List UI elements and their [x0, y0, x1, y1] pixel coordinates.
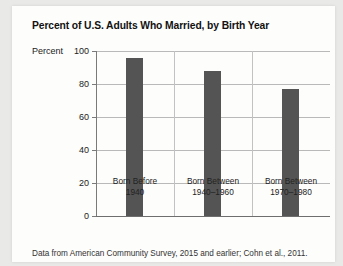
tick-mark-100 [92, 51, 96, 52]
y-tick-label-80: 80 [79, 79, 89, 89]
gridline-100 [96, 51, 330, 52]
x-category-label-2-line2: 1970–1980 [252, 187, 330, 198]
source-note: Data from American Community Survey, 201… [32, 249, 307, 258]
x-category-label-2-line1: Born Between [252, 176, 330, 187]
x-category-label-1-line2: 1940–1960 [174, 187, 252, 198]
x-category-label-0-line1: Born Before [96, 176, 174, 187]
tick-mark-60 [92, 117, 96, 118]
x-category-label-0-line2: 1940 [96, 187, 174, 198]
x-category-label-1-line1: Born Between [174, 176, 252, 187]
x-category-label-0: Born Before 1940 [96, 176, 174, 198]
y-tick-label-20: 20 [79, 178, 89, 188]
y-tick-label-0: 0 [84, 211, 89, 221]
figure-container: Percent of U.S. Adults Who Married, by B… [0, 0, 343, 266]
x-axis-line [92, 216, 330, 217]
y-tick-label-60: 60 [79, 112, 89, 122]
y-tick-label-40: 40 [79, 145, 89, 155]
tick-mark-80 [92, 84, 96, 85]
y-tick-label-100: 100 [74, 46, 89, 56]
x-category-label-2: Born Between 1970–1980 [252, 176, 330, 198]
y-axis-title: Percent [32, 46, 63, 56]
x-category-label-1: Born Between 1940–1960 [174, 176, 252, 198]
chart-title: Percent of U.S. Adults Who Married, by B… [32, 20, 269, 31]
tick-mark-40 [92, 150, 96, 151]
chart-card: Percent of U.S. Adults Who Married, by B… [12, 6, 335, 262]
tick-mark-0 [92, 216, 96, 217]
